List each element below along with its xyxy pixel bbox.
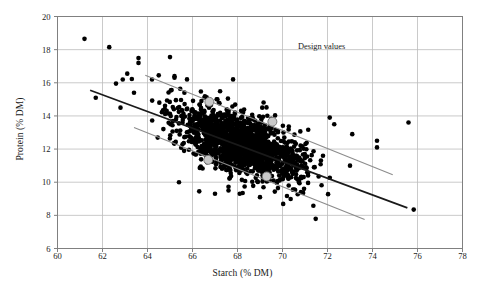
y-tick-20: 20 <box>29 12 51 22</box>
design-value-marker-3 <box>204 155 213 164</box>
design-value-marker-1 <box>205 97 214 106</box>
x-tick-68: 68 <box>225 251 251 261</box>
design-value-marker-4 <box>262 172 271 181</box>
x-tick-72: 72 <box>315 251 341 261</box>
y-tick-16: 16 <box>29 78 51 88</box>
y-tick-8: 8 <box>29 210 51 220</box>
x-tick-66: 66 <box>180 251 206 261</box>
x-tick-74: 74 <box>360 251 386 261</box>
y-tick-10: 10 <box>29 177 51 187</box>
y-tick-12: 12 <box>29 144 51 154</box>
scatter-plot-canvas <box>0 0 485 293</box>
y-tick-14: 14 <box>29 111 51 121</box>
x-tick-70: 70 <box>270 251 296 261</box>
design-values-annotation: Design values <box>298 42 345 51</box>
x-axis-label: Starch (% DM) <box>0 268 485 278</box>
y-tick-6: 6 <box>29 244 51 254</box>
x-tick-62: 62 <box>90 251 116 261</box>
y-axis-label: Protein (% DM) <box>15 49 25 209</box>
design-value-marker-2 <box>268 117 277 126</box>
y-tick-18: 18 <box>29 45 51 55</box>
figure: Starch (% DM) Protein (% DM) 60626466687… <box>0 0 485 293</box>
x-tick-64: 64 <box>135 251 161 261</box>
x-tick-78: 78 <box>450 251 476 261</box>
x-tick-76: 76 <box>405 251 431 261</box>
